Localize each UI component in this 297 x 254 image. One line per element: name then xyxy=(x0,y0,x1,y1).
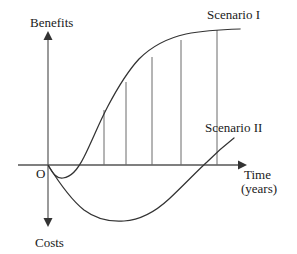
y-axis-negative-label: Costs xyxy=(35,236,64,249)
x-axis xyxy=(18,161,247,170)
y-axis xyxy=(44,31,53,227)
x-axis-unit-label: (years) xyxy=(241,182,277,195)
scenario-1-label: Scenario I xyxy=(207,8,260,21)
y-axis-positive-label: Benefits xyxy=(30,16,73,29)
hatch-lines xyxy=(104,30,217,165)
benefits-costs-figure: Benefits Costs O Time (years) Scenario I… xyxy=(0,0,297,254)
x-axis-label: Time xyxy=(244,168,271,181)
scenario-2-curve xyxy=(48,138,234,221)
y-axis-up-arrow-icon xyxy=(44,31,53,40)
scenario-1-curve xyxy=(48,29,240,178)
y-axis-down-arrow-icon xyxy=(44,218,53,227)
scenario-2-label: Scenario II xyxy=(205,121,262,134)
origin-label: O xyxy=(36,167,45,180)
